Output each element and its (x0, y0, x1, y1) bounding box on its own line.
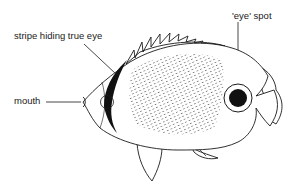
eye-spot-label: 'eye' spot (232, 11, 272, 21)
eye-spot-center (229, 89, 247, 107)
scale-dots (129, 54, 223, 134)
stripe-label: stripe hiding true eye (14, 31, 102, 41)
stripe-leader-line (84, 44, 116, 74)
mouth-label: mouth (14, 96, 40, 106)
fish-illustration (0, 0, 299, 189)
